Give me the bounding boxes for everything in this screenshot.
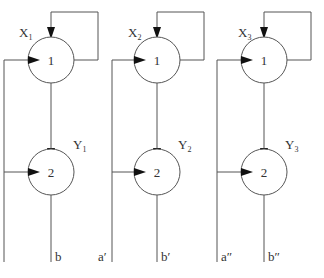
output-label-y: Y3 xyxy=(285,137,298,154)
input-terminal-label: a′ xyxy=(98,249,107,264)
state-node-2-label: 2 xyxy=(154,165,161,180)
input-terminal-label: a″ xyxy=(221,249,232,264)
input-label-x: X2 xyxy=(128,25,141,42)
input-label-x: X3 xyxy=(238,25,251,42)
automaton-diagram: 1 X1 2 Y1 b 1 X2 2 Y2 a′ b′ xyxy=(0,0,324,278)
automaton-group-2: 1 X2 2 Y2 a′ b′ xyxy=(98,12,204,264)
automaton-group-3: 1 X3 2 Y3 a″ b″ xyxy=(217,12,311,264)
output-label-y: Y2 xyxy=(178,137,191,154)
state-node-1-label: 1 xyxy=(154,53,161,68)
automaton-group-1: 1 X1 2 Y1 b xyxy=(4,12,98,264)
output-label-y: Y1 xyxy=(73,137,86,154)
state-node-2-label: 2 xyxy=(48,165,55,180)
output-terminal-label: b′ xyxy=(161,249,171,264)
input-label-x: X1 xyxy=(19,25,32,42)
left-input-line xyxy=(217,60,242,262)
state-node-2-label: 2 xyxy=(261,165,268,180)
state-node-1-label: 1 xyxy=(48,53,55,68)
left-input-line xyxy=(112,60,135,262)
state-node-1-label: 1 xyxy=(261,53,268,68)
output-terminal-label: b xyxy=(55,249,62,264)
output-terminal-label: b″ xyxy=(268,249,280,264)
left-input-line xyxy=(4,60,30,262)
